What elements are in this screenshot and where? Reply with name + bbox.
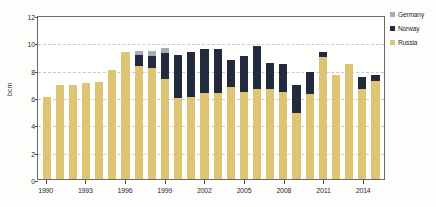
bar-stack[interactable] (227, 60, 235, 179)
bar-segment-russia[interactable] (108, 70, 116, 179)
bar-stack[interactable] (266, 63, 274, 179)
bar-slot[interactable] (224, 17, 237, 179)
bar-stack[interactable] (279, 64, 287, 179)
bar-slot[interactable] (237, 17, 250, 179)
bar-stack[interactable] (108, 70, 116, 179)
bar-stack[interactable] (306, 72, 314, 179)
bar-stack[interactable] (69, 85, 77, 179)
bar-segment-russia[interactable] (200, 93, 208, 179)
bar-segment-russia[interactable] (345, 64, 353, 179)
bar-stack[interactable] (148, 51, 156, 179)
bar-stack[interactable] (200, 49, 208, 179)
bar-segment-russia[interactable] (135, 66, 143, 179)
bar-slot[interactable] (343, 17, 356, 179)
bar-segment-russia[interactable] (43, 97, 51, 179)
bar-segment-russia[interactable] (240, 92, 248, 179)
bar-slot[interactable] (369, 17, 382, 179)
bar-stack[interactable] (174, 55, 182, 179)
bar-segment-russia[interactable] (148, 68, 156, 179)
bar-stack[interactable] (292, 85, 300, 179)
bar-slot[interactable] (329, 17, 342, 179)
bar-stack[interactable] (345, 64, 353, 179)
y-tick-label: 0 (31, 178, 35, 185)
bar-segment-russia[interactable] (69, 85, 77, 179)
bar-segment-norway[interactable] (292, 85, 300, 114)
bar-slot[interactable] (66, 17, 79, 179)
bar-segment-norway[interactable] (135, 55, 143, 66)
bar-slot[interactable] (185, 17, 198, 179)
bar-stack[interactable] (161, 48, 169, 179)
bar-stack[interactable] (95, 82, 103, 179)
bar-stack[interactable] (121, 52, 129, 179)
bar-segment-russia[interactable] (358, 89, 366, 179)
bar-segment-norway[interactable] (174, 55, 182, 99)
bar-segment-russia[interactable] (187, 97, 195, 179)
bar-segment-russia[interactable] (266, 89, 274, 179)
bar-slot[interactable] (119, 17, 132, 179)
bar-slot[interactable] (79, 17, 92, 179)
bar-slot[interactable] (132, 17, 145, 179)
bar-segment-russia[interactable] (121, 52, 129, 179)
bar-slot[interactable] (356, 17, 369, 179)
bar-stack[interactable] (56, 85, 64, 179)
bar-segment-russia[interactable] (56, 85, 64, 179)
bar-slot[interactable] (251, 17, 264, 179)
bar-segment-russia[interactable] (214, 93, 222, 179)
bar-slot[interactable] (290, 17, 303, 179)
bar-segment-norway[interactable] (240, 56, 248, 92)
bar-segment-russia[interactable] (292, 113, 300, 179)
bar-stack[interactable] (187, 52, 195, 179)
bar-stack[interactable] (358, 77, 366, 179)
bar-slot[interactable] (316, 17, 329, 179)
bar-segment-norway[interactable] (161, 53, 169, 79)
bar-slot[interactable] (211, 17, 224, 179)
bar-stack[interactable] (43, 97, 51, 179)
bar-stack[interactable] (319, 52, 327, 179)
bar-slot[interactable] (158, 17, 171, 179)
bar-segment-norway[interactable] (266, 63, 274, 89)
bar-slot[interactable] (106, 17, 119, 179)
bar-segment-norway[interactable] (214, 49, 222, 93)
bar-segment-norway[interactable] (200, 49, 208, 93)
bar-stack[interactable] (253, 46, 261, 179)
bar-segment-norway[interactable] (227, 60, 235, 87)
bar-segment-russia[interactable] (82, 83, 90, 179)
bar-slot[interactable] (303, 17, 316, 179)
bar-slot[interactable] (277, 17, 290, 179)
bar-segment-norway[interactable] (253, 46, 261, 88)
bar-stack[interactable] (214, 49, 222, 179)
legend-swatch-icon (390, 26, 395, 31)
bar-slot[interactable] (264, 17, 277, 179)
bar-segment-russia[interactable] (95, 82, 103, 179)
bar-slot[interactable] (93, 17, 106, 179)
y-axis-title: bcm (6, 83, 13, 96)
legend-item-norway[interactable]: Norway (390, 25, 424, 32)
bar-stack[interactable] (332, 75, 340, 179)
bar-segment-russia[interactable] (319, 57, 327, 179)
bar-slot[interactable] (172, 17, 185, 179)
bar-segment-russia[interactable] (161, 79, 169, 179)
bar-segment-russia[interactable] (253, 89, 261, 179)
bar-segment-russia[interactable] (279, 92, 287, 179)
bar-segment-norway[interactable] (187, 52, 195, 97)
bar-stack[interactable] (371, 75, 379, 179)
bar-segment-russia[interactable] (174, 98, 182, 179)
bar-segment-norway[interactable] (306, 72, 314, 94)
bar-slot[interactable] (198, 17, 211, 179)
bar-segment-russia[interactable] (332, 75, 340, 179)
bar-segment-norway[interactable] (279, 64, 287, 91)
bar-stack[interactable] (240, 56, 248, 179)
bar-stack[interactable] (135, 51, 143, 179)
x-tick-mark (165, 180, 166, 184)
bar-segment-norway[interactable] (148, 56, 156, 68)
bar-slot[interactable] (53, 17, 66, 179)
bar-segment-russia[interactable] (227, 87, 235, 179)
bar-segment-norway[interactable] (358, 77, 366, 89)
bar-segment-russia[interactable] (306, 94, 314, 179)
legend-item-russia[interactable]: Russia (390, 39, 424, 46)
bar-segment-russia[interactable] (371, 81, 379, 179)
bar-slot[interactable] (40, 17, 53, 179)
legend-item-germany[interactable]: Germany (390, 11, 424, 18)
bar-stack[interactable] (82, 83, 90, 179)
bar-slot[interactable] (145, 17, 158, 179)
